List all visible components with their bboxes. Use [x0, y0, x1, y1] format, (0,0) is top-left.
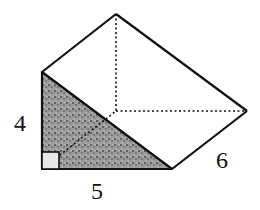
- prism-diagram: 4 5 6: [0, 0, 260, 210]
- right-angle-marker: [42, 152, 59, 169]
- base-label: 5: [91, 178, 103, 204]
- length-label: 6: [216, 147, 228, 173]
- height-label: 4: [14, 110, 26, 136]
